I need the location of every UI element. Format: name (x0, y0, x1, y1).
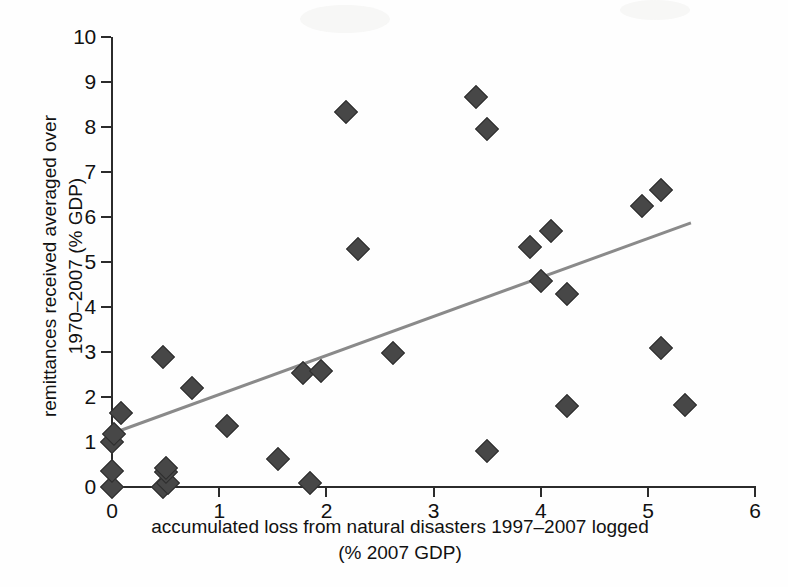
data-point (555, 281, 579, 305)
y-tick-label-7: 7 (68, 161, 96, 182)
x-tick-1 (218, 487, 220, 497)
data-point (309, 359, 333, 383)
data-point (475, 439, 499, 463)
data-point (539, 218, 563, 242)
y-tick-label-9: 9 (68, 71, 96, 92)
y-tick-8 (101, 126, 111, 128)
x-tick-4 (540, 487, 542, 497)
x-tick-3 (433, 487, 435, 497)
data-point (518, 235, 542, 259)
x-tick-6 (754, 487, 756, 497)
data-point (100, 459, 124, 483)
data-point (266, 447, 290, 471)
y-axis-title-line1: remittances received averaged over (37, 51, 63, 481)
data-point (215, 414, 239, 438)
y-axis-line (111, 37, 113, 488)
scan-artifact (300, 5, 390, 33)
data-point (334, 100, 358, 124)
data-point (649, 336, 673, 360)
y-tick-label-4: 4 (68, 296, 96, 317)
y-tick-7 (101, 171, 111, 173)
x-tick-2 (325, 487, 327, 497)
trend-line (112, 221, 692, 434)
y-tick-label-8: 8 (68, 116, 96, 137)
x-axis-title: accumulated loss from natural disasters … (80, 514, 720, 566)
data-point (555, 394, 579, 418)
y-tick-6 (101, 216, 111, 218)
y-tick-10 (101, 36, 111, 38)
y-tick-label-2: 2 (68, 386, 96, 407)
y-tick-3 (101, 351, 111, 353)
data-point (180, 376, 204, 400)
data-point (298, 471, 322, 495)
data-point (475, 117, 499, 141)
data-point (464, 85, 488, 109)
scatter-chart: remittances received averaged over 1970–… (0, 0, 788, 587)
x-axis-line (112, 486, 756, 488)
x-tick-label-6: 6 (735, 500, 775, 521)
data-point (346, 236, 370, 260)
y-tick-9 (101, 81, 111, 83)
x-tick-5 (647, 487, 649, 497)
data-point (630, 194, 654, 218)
y-tick-label-10: 10 (68, 26, 96, 47)
y-tick-2 (101, 396, 111, 398)
scan-artifact (620, 0, 690, 20)
y-tick-label-1: 1 (68, 431, 96, 452)
y-tick-5 (101, 261, 111, 263)
y-tick-label-5: 5 (68, 251, 96, 272)
data-point (381, 341, 405, 365)
x-axis-title-line2: (% 2007 GDP) (80, 540, 720, 566)
data-point (649, 178, 673, 202)
y-tick-4 (101, 306, 111, 308)
y-tick-label-3: 3 (68, 341, 96, 362)
data-point (151, 344, 175, 368)
x-axis-title-line1: accumulated loss from natural disasters … (80, 514, 720, 540)
data-point (673, 393, 697, 417)
y-tick-label-6: 6 (68, 206, 96, 227)
y-tick-label-0: 0 (68, 476, 96, 497)
